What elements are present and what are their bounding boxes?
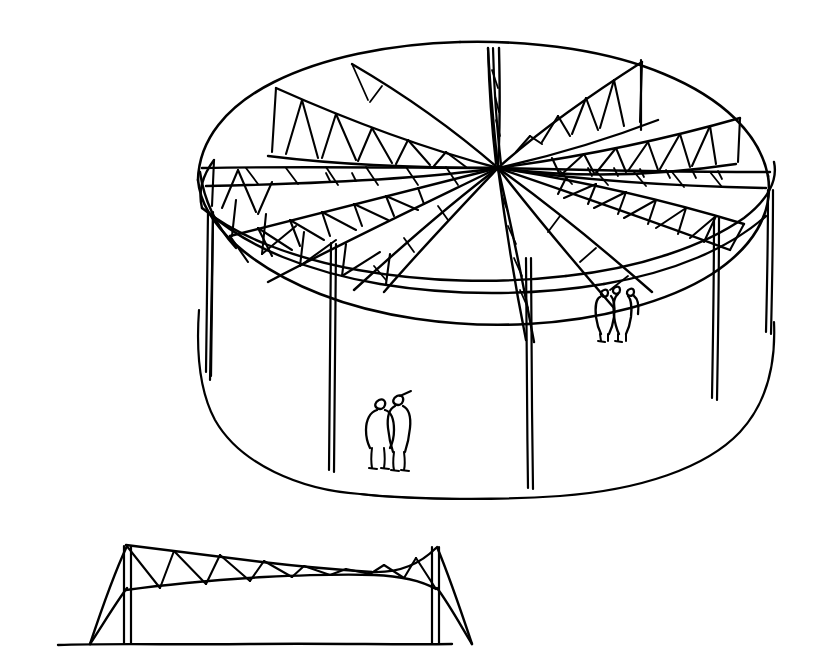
paper-background [0,0,835,668]
architectural-sketch [0,0,835,668]
ground-line [58,644,452,645]
drawing-sheet: Circular radial truss roof hand-drawn ar… [0,0,835,668]
